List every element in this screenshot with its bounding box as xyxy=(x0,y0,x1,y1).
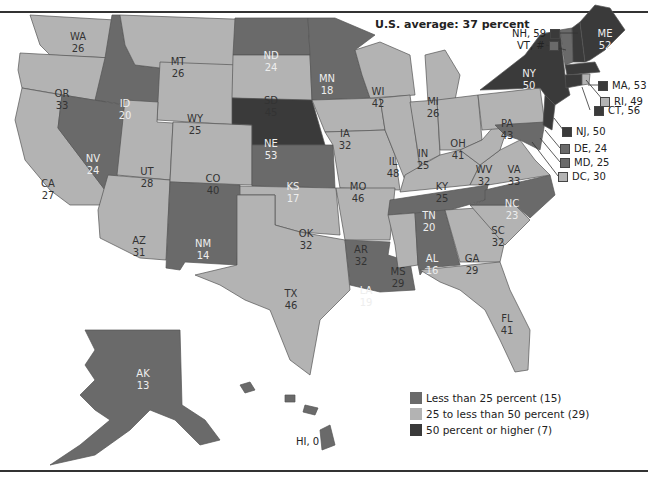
callout-DC: DC, 30 xyxy=(558,171,606,182)
swatch-mid xyxy=(558,172,568,182)
label-MI: MI26 xyxy=(427,96,440,120)
swatch-low xyxy=(560,144,570,154)
label-OK: OK32 xyxy=(299,228,313,252)
label-PA: PA43 xyxy=(501,118,514,142)
swatch-high xyxy=(550,29,560,39)
label-AZ: AZ31 xyxy=(132,235,146,259)
label-TX: TX46 xyxy=(285,288,298,312)
label-MT: MT26 xyxy=(171,56,186,80)
label-MS: MS29 xyxy=(391,266,406,290)
callout-CT: CT, 56 xyxy=(594,105,640,116)
swatch-low xyxy=(560,158,570,168)
label-WV: WV32 xyxy=(476,164,493,188)
legend-item-mid: 25 to less than 50 percent (29) xyxy=(410,406,589,422)
label-UT: UT28 xyxy=(140,166,153,190)
swatch-high xyxy=(562,127,572,137)
label-OH: OH41 xyxy=(450,138,465,162)
swatch-high xyxy=(410,424,422,436)
label-MO: MO46 xyxy=(350,181,367,205)
label-NM: NM14 xyxy=(195,238,211,262)
label-SC: SC32 xyxy=(491,225,504,249)
label-ND: ND24 xyxy=(263,50,278,74)
callout-NH: NH, 59 xyxy=(512,28,560,39)
state-HI xyxy=(240,382,335,450)
label-KS: KS17 xyxy=(287,181,300,205)
label-ID: ID20 xyxy=(119,98,132,122)
label-IL: IL48 xyxy=(387,156,400,180)
label-OR: OR33 xyxy=(55,88,70,112)
state-CT xyxy=(565,74,582,88)
label-SD: SD45 xyxy=(264,95,278,119)
bottom-rule xyxy=(0,470,648,472)
label-WA: WA26 xyxy=(70,31,86,55)
state-FL xyxy=(420,262,530,372)
label-WI: WI42 xyxy=(372,86,385,110)
callout-MA: MA, 53 xyxy=(598,80,647,91)
label-CO: CO40 xyxy=(206,173,221,197)
label-WY: WY25 xyxy=(187,113,203,137)
label-AK: AK13 xyxy=(136,368,149,392)
label-KY: KY25 xyxy=(436,181,449,205)
swatch-low xyxy=(549,41,559,51)
label-IN: IN25 xyxy=(417,148,430,172)
label-VA: VA33 xyxy=(507,164,520,188)
label-ME: ME52 xyxy=(598,28,613,52)
label-FL: FL41 xyxy=(501,313,514,337)
label-IA: IA32 xyxy=(339,128,352,152)
callout-NJ: NJ, 50 xyxy=(562,126,606,137)
label-TN: TN20 xyxy=(422,210,436,234)
legend: Less than 25 percent (15) 25 to less tha… xyxy=(410,390,589,438)
callout-MD: MD, 25 xyxy=(560,157,609,168)
state-MI xyxy=(425,50,460,102)
state-AK xyxy=(50,330,220,465)
label-NY: NY50 xyxy=(522,68,536,92)
callout-HI: HI, 0 xyxy=(296,436,319,447)
label-GA: GA29 xyxy=(465,253,480,277)
callout-VT: VT, # xyxy=(517,40,559,51)
label-NV: NV24 xyxy=(86,153,100,177)
state-MA xyxy=(565,62,600,75)
label-AR: AR32 xyxy=(354,244,368,268)
legend-item-low: Less than 25 percent (15) xyxy=(410,390,589,406)
label-CA: CA27 xyxy=(41,178,55,202)
swatch-mid xyxy=(410,408,422,420)
label-NE: NE53 xyxy=(264,138,278,162)
legend-item-high: 50 percent or higher (7) xyxy=(410,422,589,438)
label-NC: NC23 xyxy=(505,198,519,222)
label-LA: LA19 xyxy=(360,285,373,309)
swatch-high xyxy=(594,106,604,116)
swatch-high xyxy=(598,81,608,91)
swatch-low xyxy=(410,392,422,404)
label-AL: AL16 xyxy=(426,253,439,277)
callout-DE: DE, 24 xyxy=(560,143,607,154)
label-MN: MN18 xyxy=(319,73,335,97)
